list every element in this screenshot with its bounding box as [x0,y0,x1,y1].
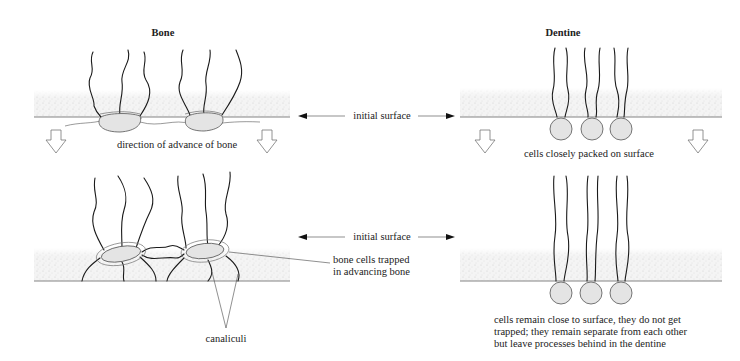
dentine-cell [610,282,632,304]
dentine-stage-1-panel [460,48,722,140]
bone-stage-1-panel [34,50,290,132]
dentine-cell [581,118,603,140]
dentine-stage-2-panel [460,176,722,304]
bone-cell [99,114,141,132]
dentine-note-line-3: but leave processes behind in the dentin… [494,338,666,349]
advance-arrow-icon [46,130,66,153]
dentine-title: Dentine [546,27,581,38]
advance-arrow-icon [688,130,708,153]
bone-cells-trapped-label-line-2: in advancing bone [333,266,410,277]
dentine-note-line-1: cells remain close to surface, they do n… [494,314,681,325]
initial-surface-indicator-bottom: initial surface [298,231,455,242]
direction-of-advance-label: direction of advance of bone [117,139,237,150]
bone-cell [185,113,223,131]
bone-title: Bone [152,27,175,38]
cells-closely-packed-label: cells closely packed on surface [524,148,654,159]
advance-arrow-icon [475,130,495,153]
bone-stage-2-panel [34,172,290,281]
initial-surface-label: initial surface [353,231,411,242]
canaliculi-label: canaliculi [206,333,247,344]
initial-surface-indicator-top: initial surface [298,110,455,121]
bone-vs-dentine-diagram: Bone Dentine direction of advance of bon… [0,0,740,361]
canaliculi-pointer-line [226,274,238,328]
dentine-cell [580,282,602,304]
dentine-cell [550,282,572,304]
initial-surface-label: initial surface [353,110,411,121]
dentine-cell [550,118,572,140]
dentine-note-line-2: trapped; they remain separate from each … [494,326,687,337]
advance-arrow-icon [257,130,277,153]
dentine-cell [610,118,632,140]
bone-cells-trapped-label-line-1: bone cells trapped [333,254,410,265]
